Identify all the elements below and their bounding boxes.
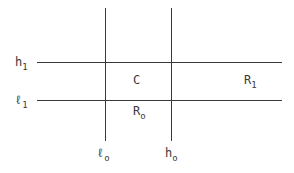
label-h1-sub: 1	[22, 62, 27, 72]
label-h0-sub: o	[172, 153, 177, 163]
label-r1-sub: 1	[251, 80, 256, 90]
label-l0: ℓo	[97, 147, 110, 164]
label-l1: ℓ1	[15, 94, 28, 111]
label-r1: R1	[244, 74, 257, 91]
line-l0	[105, 8, 106, 141]
line-h1	[37, 62, 282, 63]
label-r0: Ro	[133, 105, 146, 122]
label-h1: h1	[15, 56, 28, 73]
line-h0	[171, 8, 172, 141]
line-l1	[37, 100, 282, 101]
label-c: C	[133, 74, 140, 86]
label-r0-sub: o	[140, 111, 145, 121]
label-c-base: C	[133, 73, 140, 87]
label-l1-sub: 1	[22, 100, 27, 110]
label-l0-sub: o	[104, 153, 109, 163]
label-h0: ho	[165, 147, 178, 164]
